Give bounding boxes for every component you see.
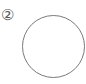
circle-shape bbox=[22, 15, 85, 78]
figure-number-label: ② bbox=[1, 7, 14, 24]
